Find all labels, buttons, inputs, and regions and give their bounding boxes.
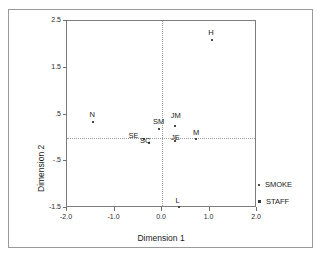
point-label-se: SE — [128, 132, 138, 140]
x-tick-label-4: 2.0 — [251, 213, 261, 221]
legend-marker-icon-smoke — [258, 184, 260, 186]
y-axis-title: Dimension 2 — [36, 145, 46, 192]
data-point-jm — [174, 125, 176, 127]
plot-area: NLMHSMJMSESCJE — [66, 20, 256, 207]
data-point-sm — [158, 128, 160, 130]
legend-item-smoke[interactable]: SMOKE — [258, 176, 316, 193]
x-tick-label-2: 0.0 — [156, 213, 166, 221]
y-tick-1 — [63, 67, 67, 68]
chart-root: NLMHSMJMSESCJE -2.0-1.00.01.02.02.51.5.5… — [0, 0, 323, 260]
point-label-n: N — [89, 111, 94, 119]
x-tick-2 — [161, 207, 162, 211]
point-label-sm: SM — [153, 118, 164, 126]
x-tick-label-1: -1.0 — [107, 213, 119, 221]
data-point-h — [211, 39, 213, 41]
reference-line-vertical — [162, 21, 163, 206]
legend-label-staff: STAFF — [266, 197, 289, 206]
point-label-jm: JM — [171, 112, 181, 120]
point-label-l: L — [176, 197, 180, 205]
chart-legend: SMOKESTAFF — [258, 176, 316, 210]
point-label-sc: SC — [140, 137, 150, 145]
point-label-h: H — [208, 29, 213, 37]
point-label-m: M — [193, 129, 199, 137]
y-tick-label-2: .5 — [40, 110, 61, 118]
y-tick-2 — [63, 114, 67, 115]
data-point-l — [178, 206, 180, 208]
legend-label-smoke: SMOKE — [265, 180, 292, 189]
y-tick-4 — [63, 207, 67, 208]
y-tick-label-1: 1.5 — [40, 63, 61, 71]
y-tick-3 — [63, 160, 67, 161]
data-point-m — [195, 138, 197, 140]
y-tick-label-4: -1.5 — [40, 203, 61, 211]
point-label-je: JE — [171, 134, 180, 142]
x-tick-label-3: 1.0 — [204, 213, 214, 221]
legend-item-staff[interactable]: STAFF — [258, 193, 316, 210]
y-tick-0 — [63, 20, 67, 21]
x-tick-4 — [256, 207, 257, 211]
reference-line-horizontal — [67, 138, 255, 139]
x-tick-label-0: -2.0 — [60, 213, 72, 221]
y-tick-label-0: 2.5 — [40, 16, 61, 24]
x-axis-title: Dimension 1 — [66, 233, 256, 243]
legend-marker-icon-staff — [258, 200, 261, 203]
x-tick-1 — [114, 207, 115, 211]
x-tick-3 — [209, 207, 210, 211]
data-point-n — [92, 121, 94, 123]
